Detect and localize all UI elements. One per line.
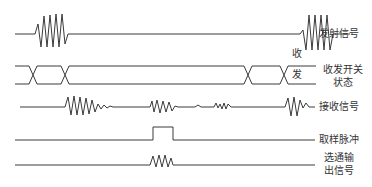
timing-diagram xyxy=(0,0,372,187)
switch-state-transmit-label: 发 xyxy=(292,69,302,81)
switch-state-waveform xyxy=(15,66,316,84)
transmit-signal-label: 发射信号 xyxy=(319,28,359,40)
transmit-signal-waveform xyxy=(15,14,350,50)
gated-output-label-line2: 出信号 xyxy=(319,165,359,177)
switch-state-label-line1: 收发开关 xyxy=(323,64,363,76)
switch-state-receive-label: 收 xyxy=(292,48,302,60)
sample-pulse-waveform xyxy=(15,127,315,140)
receive-signal-waveform xyxy=(20,96,315,116)
gated-output-label-line1: 选通输 xyxy=(319,152,359,164)
gated-output-waveform xyxy=(15,155,315,167)
switch-state-label-line2: 状态 xyxy=(323,77,363,89)
receive-signal-label: 接收信号 xyxy=(319,101,359,113)
sample-pulse-label: 取样脉冲 xyxy=(319,134,359,146)
